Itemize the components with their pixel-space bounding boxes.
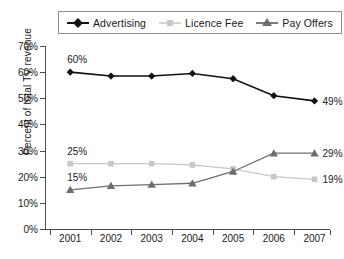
legend-label-pay-offers: Pay Offers: [282, 17, 332, 29]
y-tick-mark: [40, 203, 45, 204]
data-label-first: 25%: [67, 145, 87, 156]
advertising-marker-icon: [67, 18, 89, 28]
data-label-last: 49%: [323, 95, 343, 106]
y-tick-label: 30%: [4, 145, 38, 156]
data-point-marker: [148, 72, 155, 79]
y-tick-label: 40%: [4, 119, 38, 130]
y-tick-label: 0%: [4, 224, 38, 235]
data-label-last: 19%: [323, 174, 343, 185]
x-tick-mark: [253, 230, 254, 235]
data-point-marker: [271, 174, 277, 180]
data-point-marker: [190, 162, 196, 168]
plot-area: 60%49%25%19%15%29%: [45, 46, 330, 229]
y-tick-mark: [40, 46, 45, 47]
y-tick-mark: [40, 151, 45, 152]
x-tick-label: 2001: [59, 233, 81, 244]
data-point-marker: [108, 161, 114, 167]
data-point-marker: [270, 92, 277, 99]
x-tick-label: 2003: [141, 233, 163, 244]
licence-fee-marker-icon: [159, 18, 181, 28]
x-tick-label: 2005: [222, 233, 244, 244]
data-point-marker: [107, 72, 114, 79]
x-tick-mark: [50, 230, 51, 235]
y-tick-mark: [40, 177, 45, 178]
y-tick-label: 10%: [4, 197, 38, 208]
data-point-marker: [67, 69, 74, 76]
x-tick-mark: [131, 230, 132, 235]
data-point-marker: [189, 70, 196, 77]
legend-item-licence-fee: Licence Fee: [159, 17, 243, 29]
y-tick-mark: [40, 229, 45, 230]
data-point-marker: [312, 177, 318, 183]
x-tick-label: 2004: [181, 233, 203, 244]
data-label-last: 29%: [323, 148, 343, 159]
y-tick-label: 50%: [4, 93, 38, 104]
y-tick-mark: [40, 124, 45, 125]
y-tick-mark: [40, 98, 45, 99]
series-canvas: [45, 46, 330, 229]
y-tick-label: 20%: [4, 171, 38, 182]
data-point-marker: [149, 161, 155, 167]
x-tick-mark: [91, 230, 92, 235]
y-tick-label: 70%: [4, 41, 38, 52]
x-axis-line: [45, 229, 330, 230]
legend-item-pay-offers: Pay Offers: [256, 17, 332, 29]
data-point-marker: [230, 75, 237, 82]
legend-label-advertising: Advertising: [93, 17, 146, 29]
legend-item-advertising: Advertising: [67, 17, 146, 29]
chart-legend: Advertising Licence Fee Pay Offers: [58, 11, 342, 34]
y-axis-ticks: 0%10%20%30%40%50%60%70%: [4, 0, 38, 259]
x-tick-label: 2002: [100, 233, 122, 244]
data-point-marker: [67, 161, 73, 167]
y-tick-label: 60%: [4, 67, 38, 78]
x-tick-mark: [294, 230, 295, 235]
x-tick-mark: [330, 230, 331, 235]
x-tick-label: 2006: [263, 233, 285, 244]
x-tick-label: 2007: [303, 233, 325, 244]
legend-label-licence-fee: Licence Fee: [185, 17, 243, 29]
line-chart: Advertising Licence Fee Pay Offers Perce…: [0, 0, 344, 259]
x-tick-mark: [213, 230, 214, 235]
x-tick-mark: [172, 230, 173, 235]
data-point-marker: [311, 97, 318, 104]
pay-offers-marker-icon: [256, 18, 278, 28]
data-label-first: 15%: [67, 171, 87, 182]
y-tick-mark: [40, 72, 45, 73]
data-label-first: 60%: [67, 54, 87, 65]
